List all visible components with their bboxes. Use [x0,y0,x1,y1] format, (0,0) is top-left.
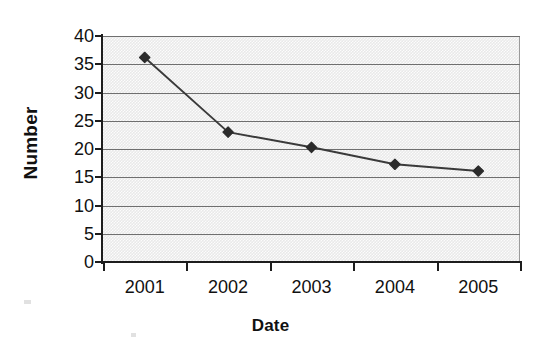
x-axis-tick-mark [437,263,439,271]
scan-artifact [24,300,31,304]
gridline [103,93,520,94]
line-chart: Number 0510152025303540 2001200220032004… [0,0,541,357]
gridline [103,149,520,150]
y-axis-title: Number [10,78,50,208]
x-axis-tick-label: 2003 [291,278,331,296]
y-axis-tick-label: 5 [48,225,94,243]
gridline [103,36,520,37]
gridline [103,234,520,235]
y-axis-tick-label: 35 [48,55,94,73]
x-axis-title: Date [0,316,541,336]
y-axis-tick-label: 30 [48,84,94,102]
gridline [103,177,520,178]
x-axis-tick-label: 2004 [375,278,415,296]
gridline [103,64,520,65]
x-axis-tick-label: 2002 [208,278,248,296]
y-axis-tick-label: 10 [48,197,94,215]
y-axis-tick-label: 20 [48,140,94,158]
x-axis-tick-mark [186,263,188,271]
y-axis-tick-label: 40 [48,27,94,45]
y-axis-tick-label: 0 [48,253,94,271]
scan-artifact [131,333,136,337]
y-axis-tick-label: 15 [48,168,94,186]
x-axis-tick-mark [103,263,105,271]
x-axis-tick-mark [270,263,272,271]
x-axis-tick-mark [520,263,522,271]
gridline [103,206,520,207]
x-axis-line [101,261,522,263]
x-axis-tick-label: 2005 [458,278,498,296]
x-axis-tick-label: 2001 [125,278,165,296]
x-axis-tick-mark [353,263,355,271]
y-axis-line [101,34,103,264]
gridline [103,121,520,122]
y-axis-tick-label: 25 [48,112,94,130]
y-axis-title-label: Number [19,107,41,180]
